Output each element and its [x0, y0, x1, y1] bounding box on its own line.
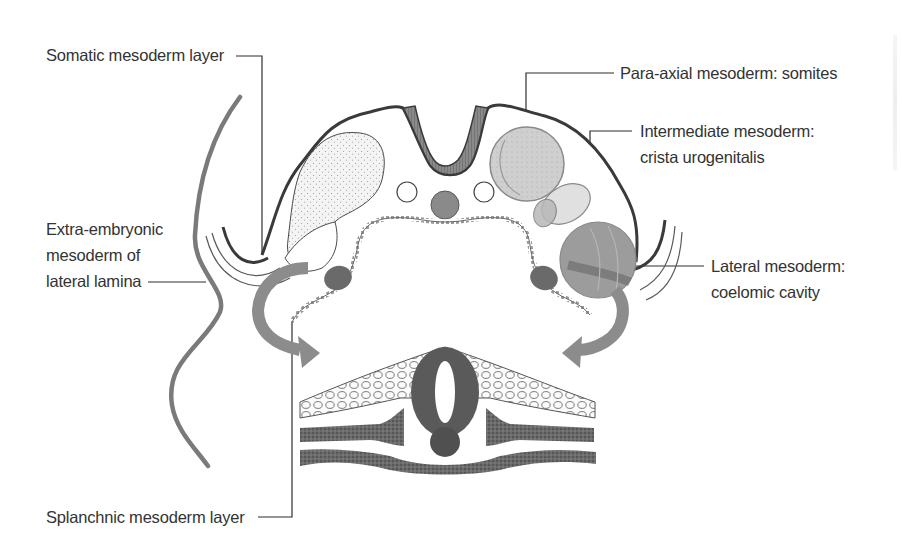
histology-notochord	[430, 427, 460, 457]
left-vesicle	[397, 182, 417, 202]
label-line: Extra-embryonic	[46, 216, 163, 242]
right-dorsal-aorta	[527, 262, 562, 294]
label-line: coelomic cavity	[711, 279, 845, 305]
notochord	[431, 191, 459, 219]
label-line: crista urogenitalis	[640, 144, 814, 170]
label-splanchnic-mesoderm: Splanchnic mesoderm layer	[46, 504, 245, 530]
label-line: Lateral mesoderm:	[711, 253, 845, 279]
label-lateral-mesoderm: Lateral mesoderm: coelomic cavity	[711, 253, 845, 305]
label-somatic-mesoderm: Somatic mesoderm layer	[46, 42, 224, 68]
left-arrow	[258, 268, 320, 368]
label-intermediate-mesoderm: Intermediate mesoderm: crista urogenital…	[640, 118, 814, 170]
label-para-axial-mesoderm: Para-axial mesoderm: somites	[620, 60, 837, 86]
watermark-strip	[893, 35, 897, 170]
histology-section	[300, 347, 596, 475]
right-body-wall	[632, 220, 682, 300]
label-line: mesoderm of	[46, 242, 163, 268]
mesoderm-diagram: Somatic mesoderm layer Extra-embryonic m…	[0, 0, 902, 546]
label-line: Intermediate mesoderm:	[640, 118, 814, 144]
label-line: lateral lamina	[46, 268, 163, 294]
somite	[490, 127, 564, 201]
neural-canal	[435, 361, 455, 423]
right-vesicle	[474, 182, 494, 202]
label-extra-embryonic-mesoderm: Extra-embryonic mesoderm of lateral lami…	[46, 216, 163, 294]
leader-somatic	[236, 56, 262, 255]
